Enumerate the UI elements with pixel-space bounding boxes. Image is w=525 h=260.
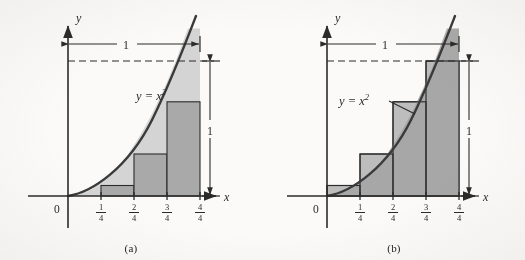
tick-numerator: 1 — [99, 202, 103, 212]
tick-label-3-a: 3 4 — [162, 202, 172, 223]
rect-bar-2 — [134, 154, 167, 196]
tick-denominator: 4 — [198, 213, 203, 223]
tick-label-2-a: 2 4 — [129, 202, 139, 223]
rect-bar-3 — [167, 102, 200, 196]
tick-label-1-a: 1 4 — [96, 202, 106, 223]
tick-numerator: 1 — [358, 202, 362, 212]
tick-denominator: 4 — [358, 213, 363, 223]
figure-sheet: y x 0 1 1 y = x2 1 4 2 4 — [0, 0, 525, 260]
curve-label-text-a: y = x — [134, 89, 162, 103]
axis-y-label-a: y — [75, 11, 82, 25]
tick-label-4-b: 4 4 — [454, 202, 464, 223]
axis-x-label-a: x — [223, 190, 230, 204]
height-dimension-label-b: 1 — [466, 124, 472, 138]
tick-numerator: 4 — [457, 202, 462, 212]
figure-panel-b: y x 0 1 1 y = x2 1 4 2 4 — [263, 0, 525, 260]
origin-label-b: 0 — [313, 203, 319, 215]
tick-label-group-a: 1 4 2 4 3 4 4 4 — [96, 202, 205, 223]
tick-numerator: 4 — [198, 202, 203, 212]
tick-label-1-b: 1 4 — [355, 202, 365, 223]
tick-numerator: 2 — [391, 202, 395, 212]
panel-caption-b: (b) — [263, 242, 525, 254]
tick-numerator: 3 — [424, 202, 428, 212]
tick-denominator: 4 — [132, 213, 137, 223]
tick-denominator: 4 — [457, 213, 462, 223]
panel-a-plot: y x 0 1 1 y = x2 1 4 2 4 — [0, 0, 262, 260]
rect-bar-1 — [101, 186, 134, 197]
tick-numerator: 2 — [132, 202, 136, 212]
tick-label-2-b: 2 4 — [388, 202, 398, 223]
tick-label-4-a: 4 4 — [195, 202, 205, 223]
width-dimension-label-b: 1 — [382, 38, 388, 52]
axis-y-label-b: y — [334, 11, 341, 25]
width-dimension-label-a: 1 — [123, 38, 129, 52]
curve-label-text-b: y = x — [337, 94, 365, 108]
tick-label-group-b: 1 4 2 4 3 4 4 4 — [355, 202, 464, 223]
figure-panel-a: y x 0 1 1 y = x2 1 4 2 4 — [0, 0, 262, 260]
height-dimension-label-a: 1 — [207, 124, 213, 138]
tick-denominator: 4 — [165, 213, 170, 223]
axis-x-label-b: x — [482, 190, 489, 204]
curve-label-b: y = x2 — [337, 92, 370, 108]
tick-denominator: 4 — [99, 213, 104, 223]
panel-b-plot: y x 0 1 1 y = x2 1 4 2 4 — [263, 0, 525, 260]
tick-label-3-b: 3 4 — [421, 202, 431, 223]
panel-caption-a: (a) — [0, 242, 262, 254]
origin-label-a: 0 — [54, 203, 60, 215]
tick-numerator: 3 — [165, 202, 169, 212]
tick-denominator: 4 — [424, 213, 429, 223]
curve-label-exponent-b: 2 — [365, 92, 370, 102]
tick-denominator: 4 — [391, 213, 396, 223]
